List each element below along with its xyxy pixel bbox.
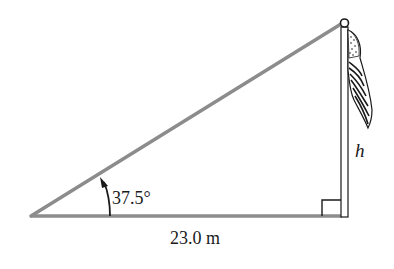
hypotenuse-line bbox=[31, 24, 341, 216]
flagpole bbox=[341, 19, 349, 217]
height-label: h bbox=[355, 140, 365, 162]
flagpole-finial bbox=[341, 19, 349, 27]
angle-arc-arrow-icon bbox=[100, 177, 110, 216]
flag-icon bbox=[348, 30, 372, 128]
right-angle-marker bbox=[322, 200, 341, 216]
base-length-label: 23.0 m bbox=[170, 228, 220, 249]
angle-label: 37.5° bbox=[112, 188, 151, 209]
